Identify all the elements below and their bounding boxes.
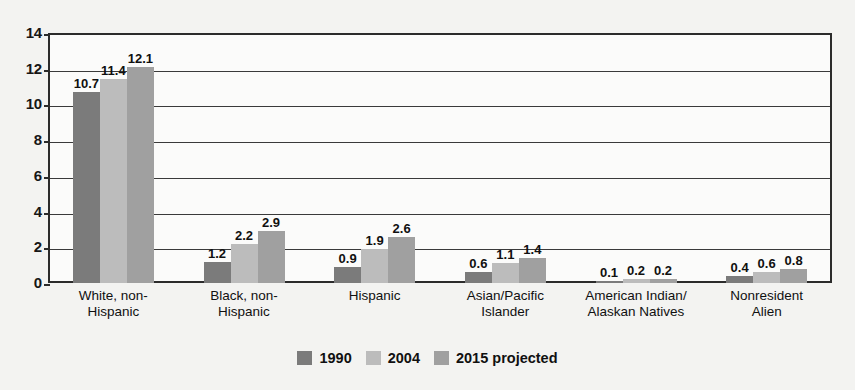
x-axis-category-line: White, non- [48, 288, 179, 304]
y-axis-tick-label: 0 [8, 274, 42, 291]
x-axis-category-line: Alien [701, 304, 832, 320]
y-axis-tick-mark [44, 177, 50, 179]
gridline [50, 71, 830, 72]
x-axis-category-line: Hispanic [48, 304, 179, 320]
gridline [50, 249, 830, 250]
x-axis-category-label: NonresidentAlien [701, 288, 832, 320]
x-axis-category-label: Asian/PacificIslander [440, 288, 571, 320]
y-axis-tick-mark [44, 213, 50, 215]
gridline [50, 178, 830, 179]
y-axis-tick-mark [44, 105, 50, 107]
x-axis-category-line: American Indian/ [571, 288, 702, 304]
y-axis-tick-label: 6 [8, 167, 42, 184]
legend-label: 1990 [319, 350, 351, 366]
legend-label: 2015 projected [456, 350, 558, 366]
x-axis-category-line: Nonresident [701, 288, 832, 304]
legend-swatch-icon [297, 351, 312, 365]
y-axis-tick-mark [44, 284, 50, 286]
y-axis-tick-mark [44, 248, 50, 250]
gridline [50, 142, 830, 143]
x-axis-category-label: Hispanic [309, 288, 440, 304]
x-axis-category-label: Black, non-Hispanic [179, 288, 310, 320]
x-axis-category-label: American Indian/Alaskan Natives [571, 288, 702, 320]
y-axis-tick-label: 12 [8, 60, 42, 77]
x-axis-category-line: Alaskan Natives [571, 304, 702, 320]
y-axis-tick-mark [44, 70, 50, 72]
x-axis-category-line: Hispanic [309, 288, 440, 304]
legend-swatch-icon [366, 351, 381, 365]
x-axis-category-line: Islander [440, 304, 571, 320]
plot-area [48, 33, 832, 283]
legend: 199020042015 projected [0, 350, 855, 366]
x-axis-category-label: White, non-Hispanic [48, 288, 179, 320]
x-axis-category-line: Black, non- [179, 288, 310, 304]
bar-chart: 02468101214 10.711.412.11.22.22.90.91.92… [0, 0, 855, 390]
legend-item[interactable]: 2015 projected [434, 350, 558, 366]
legend-item[interactable]: 2004 [366, 350, 420, 366]
y-axis: 02468101214 [0, 33, 42, 283]
y-axis-tick-label: 4 [8, 203, 42, 220]
y-axis-tick-label: 8 [8, 131, 42, 148]
x-axis-categories: White, non-HispanicBlack, non-HispanicHi… [48, 288, 832, 330]
gridline [50, 106, 830, 107]
x-axis-category-line: Asian/Pacific [440, 288, 571, 304]
legend-swatch-icon [434, 351, 449, 365]
gridline [50, 214, 830, 215]
y-axis-tick-mark [44, 34, 50, 36]
y-axis-tick-mark [44, 141, 50, 143]
y-axis-tick-label: 14 [8, 24, 42, 41]
x-axis-category-line: Hispanic [179, 304, 310, 320]
y-axis-tick-label: 10 [8, 95, 42, 112]
legend-label: 2004 [388, 350, 420, 366]
legend-item[interactable]: 1990 [297, 350, 351, 366]
y-axis-tick-label: 2 [8, 238, 42, 255]
